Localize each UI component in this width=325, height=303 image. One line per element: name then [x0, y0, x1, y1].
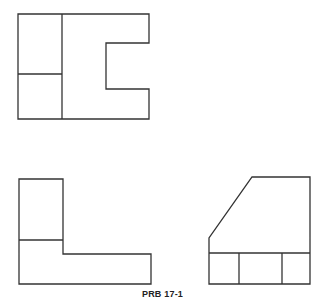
top-view-outline — [18, 14, 149, 119]
front-view-outline — [19, 179, 151, 284]
figure-caption: PRB 17-1 — [0, 289, 325, 299]
right-side-view — [209, 177, 310, 284]
side-view-outline — [209, 177, 310, 284]
top-view — [18, 14, 149, 119]
front-view — [19, 179, 151, 284]
orthographic-drawing — [0, 0, 325, 303]
